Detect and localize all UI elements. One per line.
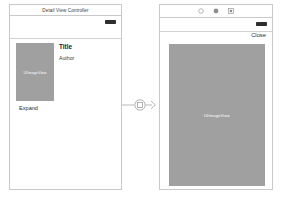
scene-title-bar: Detail View Controller (10, 5, 121, 16)
expand-button[interactable]: Expand (19, 105, 38, 111)
square-grid-icon[interactable] (228, 8, 234, 14)
close-button[interactable]: Close (251, 32, 266, 38)
image-view-placeholder-label: UIImageView (204, 113, 230, 118)
circle-outline-icon[interactable] (198, 8, 204, 14)
status-bar (10, 16, 121, 28)
status-bar (160, 18, 272, 30)
circle-filled-icon[interactable] (213, 8, 219, 14)
image-view-controller-scene[interactable]: Close UIImageView (159, 4, 273, 190)
modal-segue[interactable] (122, 98, 160, 112)
segue-connector-icon (135, 100, 145, 110)
navbar-divider (10, 38, 121, 39)
battery-icon (105, 20, 116, 23)
scene-title: Detail View Controller (42, 8, 88, 13)
image-view-icon[interactable]: UIImageView (169, 44, 265, 186)
storyboard-canvas: Detail View Controller UIImageView Title… (0, 0, 282, 200)
detail-view-controller-scene[interactable]: Detail View Controller UIImageView Title… (9, 4, 122, 190)
title-label: Title (59, 43, 72, 50)
scene-toolbar (160, 5, 272, 18)
image-view-placeholder-label: UIImageView (24, 71, 47, 75)
image-view-icon[interactable]: UIImageView (16, 43, 54, 101)
battery-icon (256, 22, 267, 25)
author-label: Author (59, 55, 74, 61)
